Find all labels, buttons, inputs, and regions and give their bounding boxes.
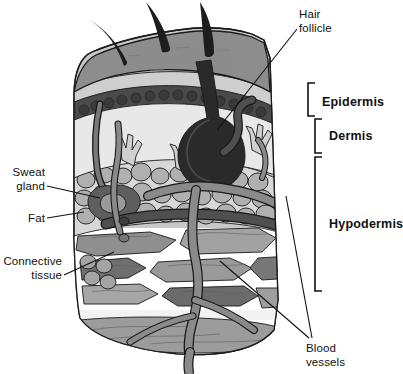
callout-text-line: vessels (306, 356, 345, 368)
skin-block (60, 28, 300, 372)
callout-label-fat: Fat (28, 212, 46, 224)
layer-label-hypodermis: Hypodermis (329, 217, 403, 231)
skin-cross-section-figure: EpidermisDermisHypodermis HairfollicleSw… (0, 0, 403, 374)
callout-text-line: Blood (306, 342, 336, 354)
callout-text-line: Hair (299, 8, 321, 20)
callout-label-blood-vessels: Bloodvessels (306, 342, 345, 368)
callout-text-line: Sweat (13, 166, 46, 178)
callout-label-sweat-gland: Sweatgland (13, 166, 46, 192)
callout-text-line: Connective (3, 255, 62, 267)
callout-label-hair-follicle: Hairfollicle (299, 8, 332, 34)
skin-diagram-canvas: EpidermisDermisHypodermis HairfollicleSw… (0, 0, 403, 374)
leader-line-blood-vessels-2 (286, 196, 312, 338)
layer-label-dermis: Dermis (329, 129, 373, 143)
callout-label-connective-tissue: Connectivetissue (3, 255, 62, 281)
bracket-hypodermis (315, 157, 322, 291)
layer-labels-group: EpidermisDermisHypodermis (308, 83, 403, 291)
vessel-exit (188, 352, 190, 372)
bracket-dermis (315, 119, 322, 153)
bracket-epidermis (308, 83, 315, 116)
vessel-node (119, 217, 129, 225)
callout-text-line: follicle (299, 22, 332, 34)
callout-text-line: Fat (28, 212, 46, 224)
layer-label-epidermis: Epidermis (322, 95, 384, 109)
vessel-node (119, 234, 129, 242)
callout-text-line: tissue (31, 269, 62, 281)
callout-text-line: gland (16, 180, 45, 192)
